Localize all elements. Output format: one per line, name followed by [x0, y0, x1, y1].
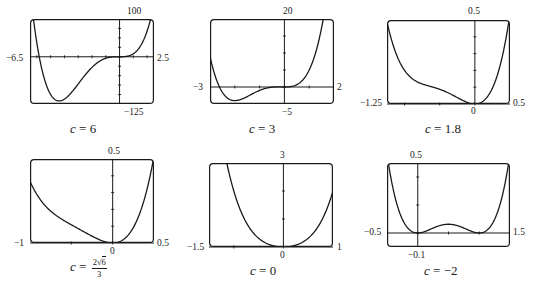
plot-frame: [211, 20, 334, 104]
plot-c0: [209, 163, 333, 247]
fraction: 2√63: [92, 258, 107, 278]
plot-c1-8: [387, 20, 510, 104]
plot-frame: [31, 160, 154, 243]
x-max-label: 1: [337, 243, 342, 253]
x-max-label: 0.5: [157, 239, 169, 249]
y-max-label: 3: [280, 151, 285, 161]
x-min-label: −3: [193, 83, 203, 93]
y-max-label: 20: [283, 7, 293, 17]
x-max-label: 1.5: [513, 228, 525, 238]
y-min-label: −5: [282, 108, 292, 118]
plot-cneg2: [387, 163, 510, 247]
y-min-label: −125: [124, 108, 144, 118]
y-max-label: 100: [127, 7, 141, 17]
y-min-label: 0: [471, 107, 476, 117]
x-max-label: 0.5: [513, 99, 525, 109]
plot-frame: [210, 164, 333, 247]
caption-c0: c = 0: [250, 264, 276, 277]
caption-cneg2: c = −2: [424, 264, 457, 277]
plot-c3: [210, 19, 334, 104]
x-min-label: −1: [14, 239, 24, 249]
x-max-label: 2: [337, 83, 342, 93]
y-max-label: 0.5: [108, 147, 120, 157]
caption-c3: c = 3: [249, 122, 275, 135]
function-curve: [387, 14, 510, 104]
function-curve: [387, 154, 510, 233]
y-min-label: 0: [110, 247, 115, 257]
x-min-label: −0.5: [364, 228, 381, 238]
caption-c2sqrt6-3: c = 2√63: [70, 258, 107, 278]
x-max-label: 2.5: [157, 54, 169, 64]
function-curve: [210, 0, 334, 101]
caption-c1-8: c = 1.8: [425, 122, 461, 135]
plot-c6: [30, 19, 154, 104]
caption-c6: c = 6: [70, 122, 96, 135]
y-max-label: 0.5: [468, 7, 480, 17]
x-min-label: −1.5: [187, 243, 204, 253]
y-min-label: −0.1: [408, 251, 425, 261]
plot-c2sqrt6-3: [30, 159, 154, 243]
y-min-label: 0: [280, 251, 285, 261]
function-curve: [30, 156, 154, 243]
y-max-label: 0.5: [410, 151, 422, 161]
x-min-label: −1.25: [360, 99, 382, 109]
x-min-label: −6.5: [6, 54, 23, 64]
